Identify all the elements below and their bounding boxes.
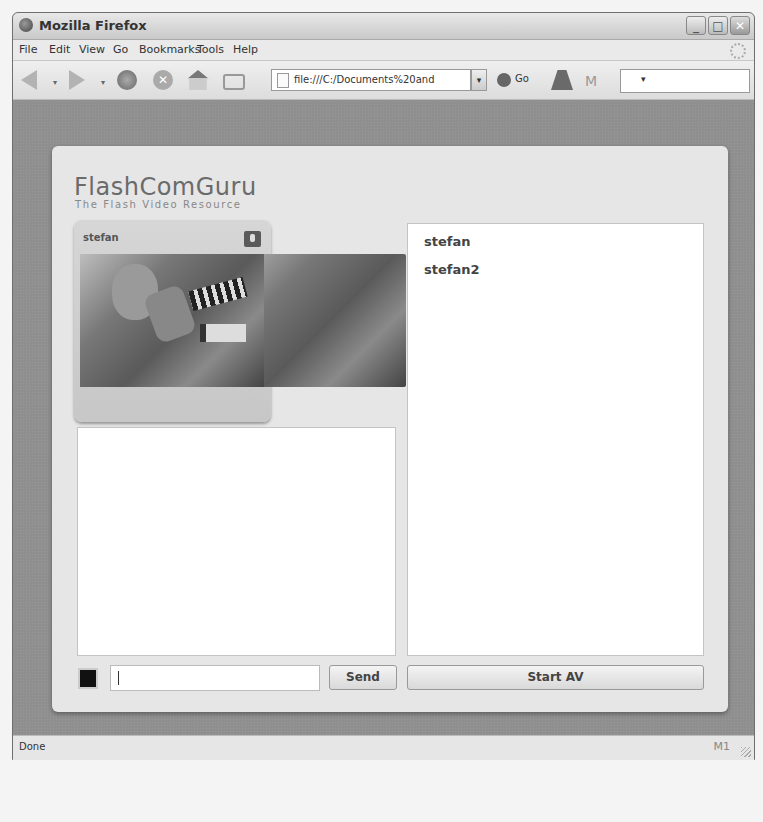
logo-tagline: The Flash Video Resource xyxy=(75,199,242,210)
user-list-item[interactable]: stefan xyxy=(424,234,470,249)
page-icon xyxy=(277,73,289,88)
url-history-dropdown[interactable]: ▾ xyxy=(471,69,487,91)
webcam-username: stefan xyxy=(83,232,119,243)
resize-grip[interactable] xyxy=(741,747,751,757)
user-list-item[interactable]: stefan2 xyxy=(424,262,480,277)
flash-app: FlashComGuru The Flash Video Resource st… xyxy=(52,146,728,712)
url-bar[interactable]: file:///C:/Documents%20and xyxy=(271,69,471,91)
status-text: Done xyxy=(19,741,45,752)
newtab-icon[interactable] xyxy=(223,74,245,90)
message-input[interactable] xyxy=(110,665,320,691)
window-title: Mozilla Firefox xyxy=(39,18,147,33)
menu-bar: File Edit View Go Bookmarks Tools Help xyxy=(13,40,754,61)
forward-history-dropdown[interactable]: ▾ xyxy=(101,78,105,87)
menu-file[interactable]: File xyxy=(19,43,37,56)
webcam-video xyxy=(80,254,264,387)
stop-icon[interactable]: ✕ xyxy=(153,70,173,90)
chat-log[interactable] xyxy=(77,427,396,656)
forward-button[interactable] xyxy=(69,70,91,90)
title-bar[interactable]: Mozilla Firefox _ □ ✕ xyxy=(13,13,754,40)
search-dropdown-icon[interactable]: ▾ xyxy=(641,74,646,84)
send-button[interactable]: Send xyxy=(329,665,397,690)
back-history-dropdown[interactable]: ▾ xyxy=(53,78,57,87)
webcam-card: stefan xyxy=(74,220,271,422)
page-content: FlashComGuru The Flash Video Resource st… xyxy=(13,100,754,735)
logo-title: FlashComGuru xyxy=(74,173,257,201)
go-button[interactable]: Go xyxy=(515,73,529,84)
browser-window: Mozilla Firefox _ □ ✕ File Edit View Go … xyxy=(12,12,755,760)
menu-help[interactable]: Help xyxy=(233,43,258,56)
menu-go[interactable]: Go xyxy=(113,43,128,56)
menu-bookmarks[interactable]: Bookmarks xyxy=(139,43,200,56)
home-icon[interactable] xyxy=(187,70,209,90)
url-text: file:///C:/Documents%20and xyxy=(294,74,434,85)
maximize-button[interactable]: □ xyxy=(708,16,728,35)
microphone-icon[interactable] xyxy=(244,231,261,247)
text-caret xyxy=(118,671,119,685)
video-shelf-lower xyxy=(200,324,246,342)
search-box[interactable]: ▾ xyxy=(620,69,750,93)
status-bar: Done M1 xyxy=(13,735,754,760)
user-list[interactable]: stefan stefan2 xyxy=(407,223,704,656)
reload-icon[interactable] xyxy=(117,70,137,90)
menu-view[interactable]: View xyxy=(79,43,105,56)
video-shelf xyxy=(188,277,247,311)
start-av-button[interactable]: Start AV xyxy=(407,665,704,690)
menu-edit[interactable]: Edit xyxy=(49,43,70,56)
navigation-toolbar: ▾ ▾ ✕ file:///C:/Documents%20and ▾ Go M … xyxy=(13,61,754,100)
throbber-icon xyxy=(730,43,746,59)
menu-tools[interactable]: Tools xyxy=(197,43,224,56)
back-arrow-icon xyxy=(21,70,37,90)
gmail-icon[interactable]: M xyxy=(585,73,607,93)
close-button[interactable]: ✕ xyxy=(730,16,750,35)
extension-icon[interactable] xyxy=(551,70,573,90)
color-picker-swatch[interactable] xyxy=(78,668,98,689)
minimize-button[interactable]: _ xyxy=(686,16,706,35)
mail-notifier[interactable]: M1 xyxy=(714,740,731,753)
firefox-icon xyxy=(19,18,33,32)
back-button[interactable] xyxy=(21,70,43,90)
go-icon[interactable] xyxy=(497,73,511,87)
forward-arrow-icon xyxy=(69,70,85,90)
